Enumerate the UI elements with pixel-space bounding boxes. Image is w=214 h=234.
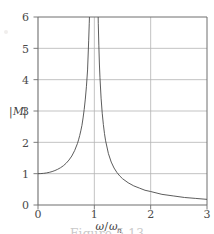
y-axis-ticks	[34, 17, 39, 205]
y-tick-label-1: 1	[22, 168, 29, 181]
page-smudge-artifact	[4, 30, 8, 34]
y-axis-label: | M |	[9, 105, 27, 119]
x-tick-label-1: 1	[91, 208, 98, 221]
horizontal-gridlines	[38, 48, 207, 173]
x-tick-label-0: 0	[35, 208, 42, 221]
y-axis-label-bar-left: |	[9, 105, 13, 119]
x-tick-label-2: 2	[147, 208, 154, 221]
y-tick-label-6: 6	[22, 11, 29, 24]
figure-caption-strip: Figure 5.13	[0, 227, 214, 234]
x-tick-label-3: 3	[204, 208, 211, 221]
y-tick-label-0: 0	[22, 199, 29, 212]
magnitude-curve-group	[38, 0, 207, 199]
y-tick-label-2: 2	[22, 137, 29, 150]
curve-high-frequency-branch	[96, 0, 207, 199]
y-axis-label-bar-right: |	[23, 105, 27, 119]
y-tick-label-4: 4	[22, 74, 29, 87]
y-tick-label-5: 5	[22, 43, 29, 56]
curve-low-frequency-branch	[38, 0, 93, 174]
figure-caption: Figure 5.13	[70, 227, 144, 234]
frequency-response-chart: 6 5 4 3 2 1 0 0 1 2 3 | M | ω / ω n	[0, 0, 214, 234]
figure-container: 6 5 4 3 2 1 0 0 1 2 3 | M | ω / ω n	[0, 0, 214, 234]
x-axis-tick-labels: 0 1 2 3	[35, 208, 211, 221]
x-axis-ticks	[38, 205, 207, 210]
